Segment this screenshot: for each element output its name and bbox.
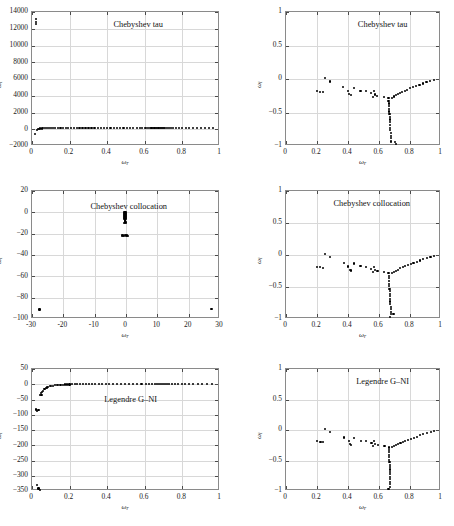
x-tick-label: 1 <box>426 493 454 500</box>
gridline-horizontal <box>286 461 439 462</box>
y-axis-tick <box>436 12 439 13</box>
y-tick-label: −20 <box>0 229 28 236</box>
y-axis-tick <box>436 255 439 256</box>
y-axis-title: ωi <box>255 258 263 264</box>
data-point <box>132 383 134 385</box>
x-axis-tick <box>107 369 108 372</box>
x-axis-tick <box>157 191 158 194</box>
y-tick-label: −80 <box>0 293 28 300</box>
x-axis-tick <box>317 191 318 194</box>
x-axis-tick <box>348 486 349 489</box>
y-axis-tick <box>215 212 218 213</box>
x-tick-label: -20 <box>48 321 76 328</box>
data-point <box>177 383 179 385</box>
data-point <box>387 97 389 99</box>
x-axis-tick <box>286 314 287 317</box>
y-tick-label: −60 <box>0 272 28 279</box>
plot-title-legendre-gni-zoom: Legendre G–NI <box>356 377 409 386</box>
y-axis-tick <box>436 369 439 370</box>
gridline-vertical <box>348 12 349 144</box>
x-tick-label: 0.6 <box>130 493 158 500</box>
data-point <box>112 383 114 385</box>
data-point <box>372 96 374 98</box>
x-tick-label: 0 <box>271 493 299 500</box>
y-axis-tick <box>286 400 289 401</box>
x-axis-tick <box>348 191 349 194</box>
x-tick-label: 1 <box>426 148 454 155</box>
data-point <box>370 442 372 444</box>
data-point <box>322 267 324 269</box>
data-point <box>413 437 415 439</box>
data-point <box>419 259 421 261</box>
x-tick-label: 0.2 <box>55 148 83 155</box>
data-point <box>426 257 428 259</box>
y-axis-tick <box>215 96 218 97</box>
y-tick-label: −150 <box>0 425 28 432</box>
y-tick-label: 0.5 <box>260 218 282 225</box>
data-point <box>377 444 379 446</box>
gridline-horizontal <box>32 129 218 130</box>
x-axis-title: ωr <box>105 503 145 511</box>
data-point <box>360 440 362 442</box>
data-point <box>350 269 352 271</box>
gridline-horizontal <box>286 46 439 47</box>
data-point <box>433 79 435 81</box>
gridline-horizontal <box>286 430 439 431</box>
y-axis-tick <box>436 430 439 431</box>
y-tick-label: −0.5 <box>260 456 282 463</box>
x-axis-tick <box>379 141 380 144</box>
gridline-horizontal <box>286 255 439 256</box>
y-axis-title: ωi <box>255 433 263 439</box>
x-tick-label: 10 <box>142 321 170 328</box>
x-tick-label: 1 <box>426 321 454 328</box>
data-point <box>418 84 420 86</box>
gridline-horizontal <box>32 62 218 63</box>
y-axis-tick <box>286 287 289 288</box>
data-point <box>105 383 107 385</box>
y-tick-label: −2000 <box>0 141 28 148</box>
y-axis-tick <box>32 445 35 446</box>
data-point <box>39 489 41 491</box>
y-axis-tick <box>436 46 439 47</box>
x-axis-tick <box>379 314 380 317</box>
x-tick-label: 0 <box>271 148 299 155</box>
y-tick-label: 0.5 <box>260 395 282 402</box>
x-tick-label: -10 <box>80 321 108 328</box>
x-axis-title: ωr <box>105 158 145 166</box>
x-axis-tick <box>348 141 349 144</box>
data-point <box>388 113 390 115</box>
y-tick-label: 2000 <box>0 108 28 115</box>
y-axis-tick <box>32 298 35 299</box>
y-tick-label: 0 <box>260 74 282 81</box>
x-axis-title: ωr <box>343 158 383 166</box>
x-axis-tick <box>410 141 411 144</box>
y-axis-tick <box>215 234 218 235</box>
x-axis-tick <box>70 12 71 15</box>
y-axis-tick <box>215 298 218 299</box>
gridline-horizontal <box>32 46 218 47</box>
data-point <box>87 127 89 129</box>
data-point <box>78 127 80 129</box>
x-axis-tick <box>348 12 349 15</box>
y-axis-tick <box>436 223 439 224</box>
gridline-vertical <box>70 369 71 489</box>
data-point <box>40 394 42 396</box>
x-tick-label: 0.4 <box>92 148 120 155</box>
x-axis-tick <box>317 486 318 489</box>
y-tick-label: −40 <box>0 250 28 257</box>
x-axis-tick <box>286 141 287 144</box>
x-tick-label: 20 <box>174 321 202 328</box>
data-point <box>392 313 394 315</box>
y-axis-tick <box>215 461 218 462</box>
data-point <box>373 266 375 268</box>
x-axis-tick <box>182 12 183 15</box>
gridline-vertical <box>379 191 380 317</box>
y-axis-tick <box>436 400 439 401</box>
data-point <box>181 383 183 385</box>
data-point <box>410 438 412 440</box>
x-axis-tick <box>410 191 411 194</box>
plot-area-chebyshev-tau-full <box>31 11 219 145</box>
y-axis-tick <box>286 46 289 47</box>
x-axis-tick <box>145 486 146 489</box>
data-point <box>343 262 345 264</box>
